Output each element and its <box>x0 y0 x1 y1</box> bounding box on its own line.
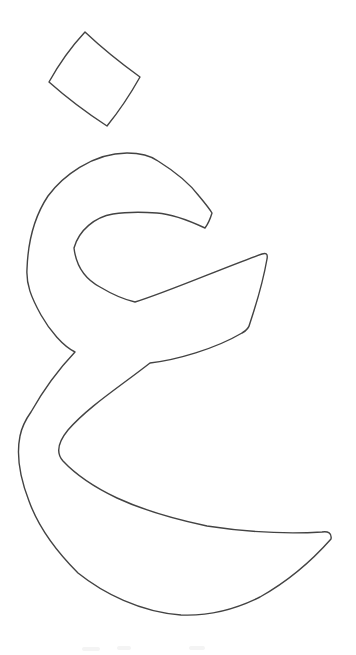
ghayn-outline-figure <box>0 0 356 655</box>
ghayn-dot-outline <box>49 32 140 126</box>
glyph-page <box>0 0 356 655</box>
ghayn-body-outline <box>18 153 331 615</box>
bottom-edge-faint-marks <box>84 648 203 649</box>
